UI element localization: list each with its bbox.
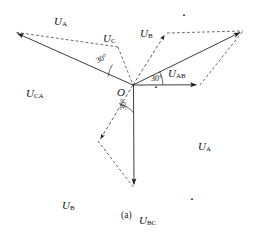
dash-ub-to-ubc-tip [98, 141, 134, 188]
angle-right: 30° [151, 75, 162, 83]
label-ub-lower: UB [62, 200, 261, 212]
angle-lower: 30° [120, 99, 128, 110]
label-uca: UCA [26, 88, 261, 100]
label-uc-upper: UC [103, 33, 116, 45]
label-ua-upper: UA [54, 16, 261, 28]
figure-caption: (a) [121, 210, 132, 220]
label-ub-upper: UB [140, 28, 261, 40]
label-ua-right: UA [198, 141, 261, 153]
phase-voltage-vectors [101, 35, 197, 139]
origin-label: O [117, 87, 125, 98]
label-ubc: UBC [139, 215, 261, 227]
parallelogram-construction-lines [14, 31, 243, 188]
label-uab: UAB [168, 68, 261, 80]
